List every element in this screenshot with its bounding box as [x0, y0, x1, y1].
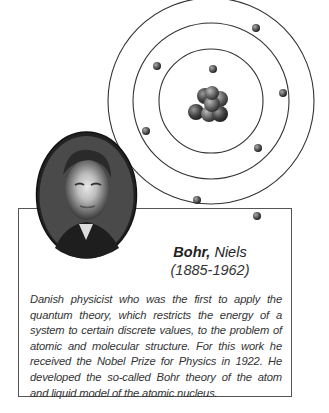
- given-name: Niels: [214, 244, 246, 260]
- life-dates: (1885-1962): [150, 262, 270, 278]
- surname: Bohr,: [173, 244, 210, 260]
- person-name: Bohr, Niels: [150, 244, 270, 261]
- biography-text: Danish physicist who was the first to ap…: [30, 292, 282, 401]
- nucleus: [188, 86, 228, 122]
- portrait-photo: [35, 130, 138, 260]
